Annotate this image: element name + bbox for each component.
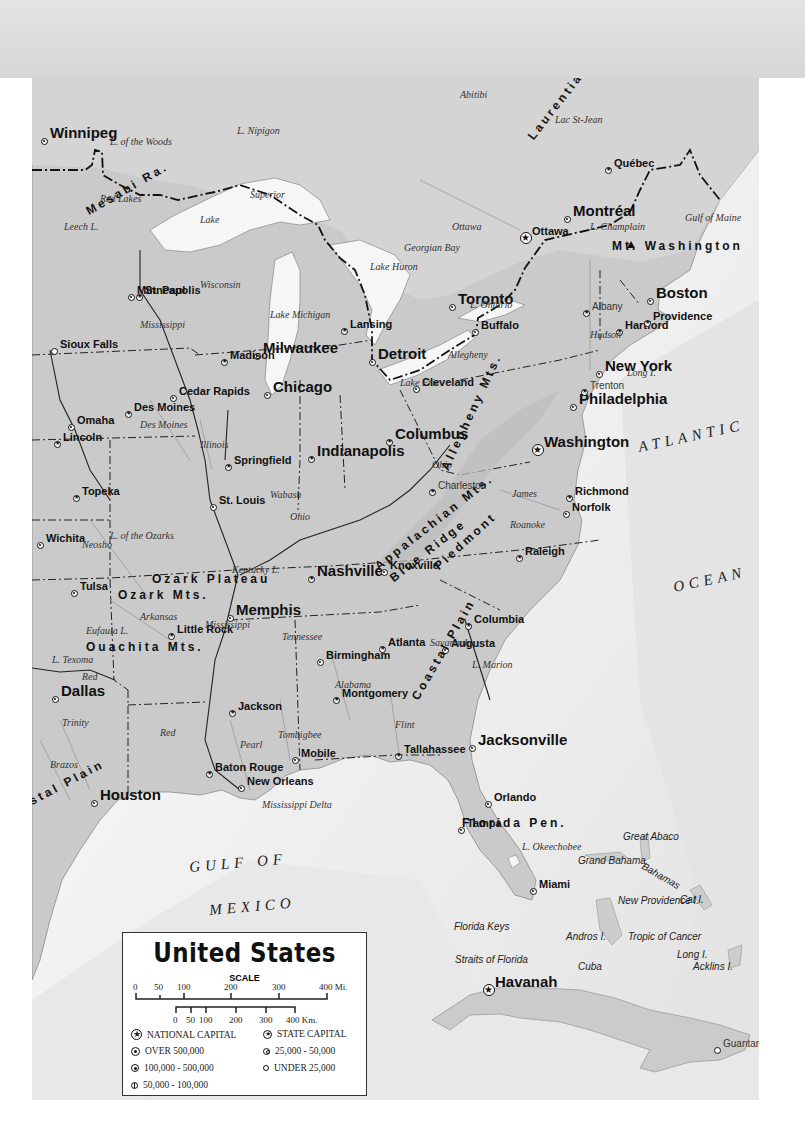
city-label-houston[interactable]: Houston	[100, 787, 161, 802]
header-band	[0, 0, 805, 78]
city-label-lincoln[interactable]: Lincoln	[63, 432, 102, 443]
legend-title: United States	[141, 937, 348, 968]
city-label-raleigh[interactable]: Raleigh	[525, 546, 565, 557]
city-label-providence[interactable]: Providence	[653, 311, 712, 322]
over-500k-marker-icon	[210, 504, 217, 511]
city-label-norfolk[interactable]: Norfolk	[572, 502, 611, 513]
state-capital-marker-icon	[73, 495, 80, 502]
city-label-tulsa[interactable]: Tulsa	[80, 581, 108, 592]
city-label-des-moines[interactable]: Des Moines	[134, 402, 195, 413]
island-label-florida-keys: Florida Keys	[454, 922, 510, 932]
city-label-ottawa[interactable]: Ottawa	[532, 226, 569, 237]
city-label-trenton[interactable]: Trenton	[590, 381, 624, 391]
city-label-buffalo[interactable]: Buffalo	[481, 320, 519, 331]
city-label-qu-bec[interactable]: Québec	[614, 158, 654, 169]
city-label-havanah[interactable]: Havanah	[495, 974, 558, 989]
over-500k-marker-icon	[264, 392, 271, 399]
100k-500k-marker-icon	[317, 659, 324, 666]
city-label-montr-al[interactable]: Montréal	[573, 203, 636, 218]
state-capital-icon: ★	[263, 1030, 272, 1039]
island-label-grand-bahama: Grand Bahama	[578, 856, 646, 866]
city-label-jacksonville[interactable]: Jacksonville	[478, 732, 567, 747]
city-label-jackson[interactable]: Jackson	[238, 701, 282, 712]
city-label-st-paul[interactable]: St. Paul	[145, 285, 185, 296]
city-label-springfield[interactable]: Springfield	[234, 455, 291, 466]
city-label-winnipeg[interactable]: Winnipeg	[50, 125, 117, 140]
city-label-orlando[interactable]: Orlando	[494, 792, 536, 803]
water-label-l-of-the-woods: L. of the Woods	[110, 137, 172, 147]
island-label-great-abaco: Great Abaco	[623, 832, 679, 842]
water-label-ottawa: Ottawa	[452, 222, 481, 232]
state-capital-marker-icon	[221, 359, 228, 366]
over-500k-marker-icon	[91, 800, 98, 807]
legend-label: 50,000 - 100,000	[143, 1080, 208, 1090]
water-label-trinity: Trinity	[62, 718, 89, 728]
legend-25k-50k: 25,000 - 50,000	[263, 1046, 335, 1056]
water-label-lac-st-jean: Lac St-Jean	[555, 115, 603, 125]
mi-tick-200: 200	[224, 982, 238, 992]
water-label-superior: Superior	[250, 190, 285, 200]
legend-national-capital: ★ NATIONAL CAPITAL	[131, 1029, 236, 1040]
city-label-albany[interactable]: Albany	[592, 302, 623, 312]
city-label-mobile[interactable]: Mobile	[301, 748, 336, 759]
water-label-allegheny: Allegheny	[448, 350, 488, 360]
map-legend: United States SCALE 0 50 100 200 300 400…	[122, 932, 367, 1096]
water-label-red: Red	[82, 672, 98, 682]
over-500k-marker-icon	[596, 371, 603, 378]
water-label-flint: Flint	[395, 720, 414, 730]
city-label-sioux-falls[interactable]: Sioux Falls	[60, 339, 118, 350]
state-capital-marker-icon	[516, 555, 523, 562]
city-label-detroit[interactable]: Detroit	[378, 346, 426, 361]
region-label-ozark-mts: Ozark Mts.	[118, 589, 209, 601]
island-label-acklins-i: Acklins I.	[693, 962, 733, 972]
city-label-washington[interactable]: Washington	[544, 434, 629, 449]
city-label-topeka[interactable]: Topeka	[82, 486, 120, 497]
50k-100k-icon	[131, 1082, 138, 1089]
city-label-boston[interactable]: Boston	[656, 285, 708, 300]
state-capital-marker-icon	[206, 771, 213, 778]
water-label-long-i: Long I.	[627, 368, 656, 378]
water-label-pearl: Pearl	[240, 740, 262, 750]
km-tick-400: 400 Km.	[286, 1015, 318, 1025]
state-capital-marker-icon	[395, 753, 402, 760]
city-label-miami[interactable]: Miami	[539, 879, 570, 890]
city-label-nashville[interactable]: Nashville	[317, 563, 383, 578]
national-capital-marker-icon	[520, 232, 532, 244]
over-500k-marker-icon	[564, 216, 571, 223]
city-label-chicago[interactable]: Chicago	[273, 379, 332, 394]
100k-500k-marker-icon	[485, 801, 492, 808]
city-label-dallas[interactable]: Dallas	[61, 683, 105, 698]
city-label-st-louis[interactable]: St. Louis	[219, 495, 265, 506]
city-label-memphis[interactable]: Memphis	[236, 602, 301, 617]
city-label-madison[interactable]: Madison	[230, 350, 275, 361]
water-label-alabama: Alabama	[335, 680, 371, 690]
water-label-mississippi: Mississippi	[140, 320, 185, 330]
city-label-wichita[interactable]: Wichita	[46, 533, 85, 544]
city-label-baton-rouge[interactable]: Baton Rouge	[215, 762, 283, 773]
mi-tick-0: 0	[133, 982, 138, 992]
city-label-tallahassee[interactable]: Tallahassee	[404, 744, 466, 755]
city-label-new-orleans[interactable]: New Orleans	[247, 776, 314, 787]
water-label-tombigbee: Tombigbee	[278, 730, 322, 740]
km-tick-200: 200	[229, 1015, 243, 1025]
island-label-cuba: Cuba	[578, 962, 602, 972]
city-label-richmond[interactable]: Richmond	[575, 486, 629, 497]
legend-label: 25,000 - 50,000	[275, 1046, 335, 1056]
legend-100k-500k: 100,000 - 500,000	[131, 1063, 214, 1073]
city-label-cedar-rapids[interactable]: Cedar Rapids	[179, 386, 250, 397]
city-label-atlanta[interactable]: Atlanta	[388, 637, 425, 648]
state-capital-marker-icon	[583, 310, 590, 317]
mi-tick-50: 50	[154, 982, 163, 992]
island-label-straits-of-florida: Straits of Florida	[455, 955, 528, 965]
water-label-mississippi: Mississippi	[205, 620, 250, 630]
water-label-l-of-the-ozarks: L. of the Ozarks	[110, 531, 174, 541]
city-label-omaha[interactable]: Omaha	[77, 415, 114, 426]
km-tick-0: 0	[173, 1015, 178, 1025]
city-label-philadelphia[interactable]: Philadelphia	[579, 391, 667, 406]
city-label-guantanamo[interactable]: Guantanamo	[723, 1039, 759, 1049]
water-label-abitibi: Abitibi	[460, 90, 487, 100]
water-label-james: James	[512, 489, 537, 499]
city-label-lansing[interactable]: Lansing	[350, 319, 392, 330]
city-label-columbia[interactable]: Columbia	[474, 614, 524, 625]
water-label-ohio: Ohio	[290, 512, 310, 522]
